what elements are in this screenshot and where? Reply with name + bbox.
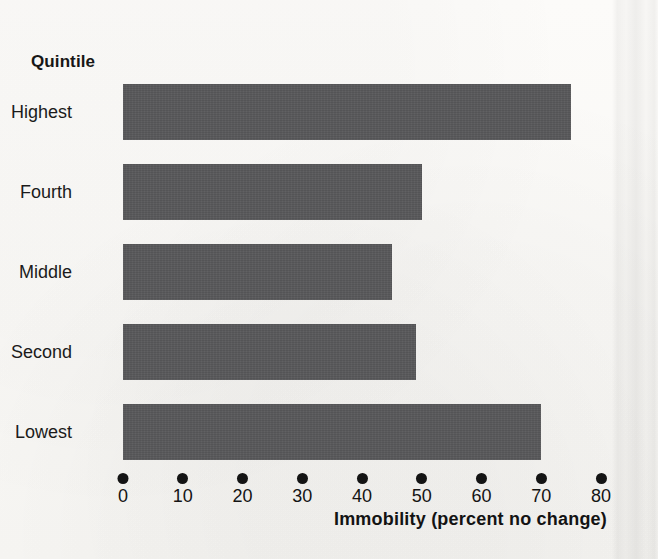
chart-page: Quintile HighestFourthMiddleSecondLowest…	[0, 0, 658, 559]
bar-fill	[123, 324, 416, 380]
bar-row: Fourth	[0, 164, 658, 220]
x-axis-tick: 10	[173, 473, 193, 506]
bar-row: Highest	[0, 84, 658, 140]
x-axis-tick-label: 40	[352, 487, 372, 506]
bar-fill	[123, 404, 541, 460]
bar-category-label: Lowest	[15, 404, 72, 460]
x-axis-tick: 70	[531, 473, 551, 506]
bar-track	[123, 324, 416, 380]
x-axis-tick-label: 80	[591, 487, 611, 506]
bar-category-label: Highest	[11, 84, 72, 140]
bar-row: Second	[0, 324, 658, 380]
x-axis-tick: 30	[292, 473, 312, 506]
tick-dot-icon	[536, 473, 547, 484]
bar-category-label: Second	[11, 324, 72, 380]
x-axis-tick: 80	[591, 473, 611, 506]
x-axis-tick-label: 70	[531, 487, 551, 506]
bar-track	[123, 404, 541, 460]
x-axis-tick-label: 20	[232, 487, 252, 506]
x-axis-tick-label: 0	[118, 487, 129, 506]
bar-track	[123, 244, 392, 300]
tick-dot-icon	[297, 473, 308, 484]
bar-fill	[123, 164, 422, 220]
x-axis-tick: 0	[118, 473, 129, 506]
bar-track	[123, 164, 422, 220]
x-axis-tick: 60	[471, 473, 491, 506]
tick-dot-icon	[476, 473, 487, 484]
x-axis-tick: 50	[412, 473, 432, 506]
tick-dot-icon	[237, 473, 248, 484]
bar-row: Middle	[0, 244, 658, 300]
tick-dot-icon	[118, 473, 129, 484]
x-axis-tick-label: 30	[292, 487, 312, 506]
x-axis-title: Immobility (percent no change)	[0, 509, 612, 530]
x-axis-tick-label: 10	[173, 487, 193, 506]
x-axis-tick-label: 60	[471, 487, 491, 506]
bar-fill	[123, 84, 571, 140]
tick-dot-icon	[357, 473, 368, 484]
bar-category-label: Fourth	[20, 164, 72, 220]
y-axis-header: Quintile	[31, 52, 95, 72]
bar-track	[123, 84, 571, 140]
horizontal-bar-chart: Quintile HighestFourthMiddleSecondLowest…	[0, 0, 658, 559]
x-axis-tick: 20	[232, 473, 252, 506]
bar-fill	[123, 244, 392, 300]
x-axis-tick-label: 50	[412, 487, 432, 506]
tick-dot-icon	[596, 473, 607, 484]
tick-dot-icon	[177, 473, 188, 484]
tick-dot-icon	[416, 473, 427, 484]
x-axis-tick: 40	[352, 473, 372, 506]
bar-category-label: Middle	[19, 244, 72, 300]
bar-row: Lowest	[0, 404, 658, 460]
